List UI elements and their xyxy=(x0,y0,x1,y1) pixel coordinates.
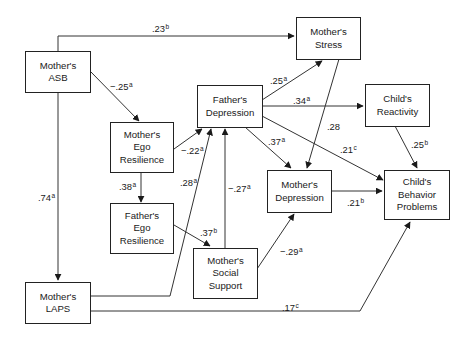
coef-support-mdep: −.29a xyxy=(280,245,303,257)
edge-stress-mdep xyxy=(307,59,339,168)
node-label-line: Ego xyxy=(133,222,150,235)
node-label-line: Mother's xyxy=(124,129,161,142)
node-label-line: Depression xyxy=(275,192,324,205)
coef-asb-mego: −.25a xyxy=(110,80,133,92)
node-label-line: Mother's xyxy=(40,291,77,304)
node-mothers-laps: Mother's LAPS xyxy=(25,282,91,324)
node-mothers-asb: Mother's ASB xyxy=(25,51,91,93)
node-label-line: Ego xyxy=(133,141,150,154)
coef-laps-fdep: .28a xyxy=(180,176,197,188)
coef-fdep-react: .34a xyxy=(293,94,310,106)
node-label-line: Resilience xyxy=(120,154,164,167)
coef-laps-cbp: .17c xyxy=(282,301,299,313)
coef-mdep-cbp: .21b xyxy=(347,196,364,208)
coef-mego-fego: .38a xyxy=(119,180,136,192)
node-mothers-depression: Mother's Depression xyxy=(267,170,332,213)
node-label-line: Father's xyxy=(125,210,159,223)
edge-support-mdep xyxy=(257,214,294,269)
node-fathers-depression: Father's Depression xyxy=(197,85,263,128)
node-label-line: Depression xyxy=(206,107,255,120)
node-childs-behavior-problems: Child's Behavior Problems xyxy=(384,170,450,220)
coef-mego-fdep: −.22a xyxy=(181,144,204,156)
coef-fego-support: .37b xyxy=(200,226,217,238)
node-label-line: Mother's xyxy=(207,255,244,268)
coef-fdep-cbp: .21c xyxy=(340,143,357,155)
node-label-line: Mother's xyxy=(40,60,77,73)
coef-asb-laps: .74a xyxy=(38,191,55,203)
node-label-line: Mother's xyxy=(281,179,318,192)
node-label-line: LAPS xyxy=(46,303,71,316)
node-label-line: Reactivity xyxy=(377,106,419,119)
node-label-line: Child's xyxy=(403,176,432,189)
node-mothers-social-support: Mother's Social Support xyxy=(193,248,258,299)
edge-fdep-mdep xyxy=(245,127,291,168)
node-label-line: Mother's xyxy=(310,26,347,39)
coef-stress-mdep: .28 xyxy=(327,120,341,132)
node-label-line: Problems xyxy=(397,201,438,214)
node-mothers-stress: Mother's Stress xyxy=(296,17,361,60)
node-label-line: Support xyxy=(209,280,243,293)
coef-asb-stress: .23b xyxy=(152,22,169,34)
node-label-line: Child's xyxy=(383,93,412,106)
node-label-line: Social xyxy=(212,267,238,280)
node-mothers-ego-resilience: Mother's Ego Resilience xyxy=(110,122,174,173)
node-label-line: ASB xyxy=(48,72,67,85)
node-label-line: Behavior xyxy=(398,189,436,202)
path-diagram: Mother's ASB Mother's Stress Father's De… xyxy=(0,0,471,340)
edge-asb-stress xyxy=(58,36,294,51)
node-label-line: Father's xyxy=(213,94,247,107)
node-label-line: Stress xyxy=(315,39,342,52)
node-label-line: Resilience xyxy=(120,235,164,248)
coef-fdep-mdep: .37a xyxy=(268,135,285,147)
coef-support-fdep: −.27a xyxy=(228,182,251,194)
coef-react-cbp: .25b xyxy=(411,138,428,150)
coef-fdep-stress: .25a xyxy=(270,74,287,86)
node-childs-reactivity: Child's Reactivity xyxy=(365,84,430,127)
node-fathers-ego-resilience: Father's Ego Resilience xyxy=(110,203,174,254)
